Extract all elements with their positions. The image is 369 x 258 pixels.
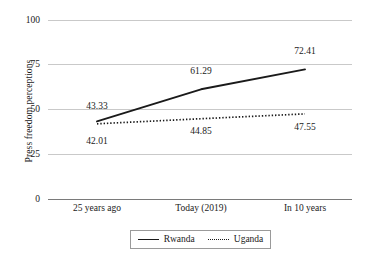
- data-label-rwanda-0: 43.33: [70, 101, 124, 112]
- data-label-uganda-0: 42.01: [70, 136, 124, 147]
- x-tick-label-0: 25 years ago: [42, 203, 152, 214]
- chart-legend: Rwanda Uganda: [130, 230, 271, 249]
- legend-line-dotted-icon: [208, 239, 229, 240]
- legend-entry-uganda[interactable]: Uganda: [208, 234, 264, 245]
- data-label-rwanda-1: 61.29: [174, 66, 228, 77]
- data-label-rwanda-2: 72.41: [278, 46, 332, 57]
- legend-label-uganda: Uganda: [234, 234, 264, 245]
- x-tick-label-2: In 10 years: [250, 203, 360, 214]
- x-tick-label-1: Today (2019): [146, 203, 256, 214]
- data-label-uganda-2: 47.55: [278, 122, 332, 133]
- legend-entry-rwanda[interactable]: Rwanda: [138, 234, 195, 245]
- data-label-uganda-1: 44.85: [174, 126, 228, 137]
- series-line-uganda: [97, 114, 305, 124]
- legend-label-rwanda: Rwanda: [164, 234, 195, 245]
- line-chart: Press freedom perceptions 100 75 50 25 0…: [0, 0, 369, 258]
- series-line-rwanda: [97, 69, 305, 121]
- legend-line-solid-icon: [138, 239, 159, 240]
